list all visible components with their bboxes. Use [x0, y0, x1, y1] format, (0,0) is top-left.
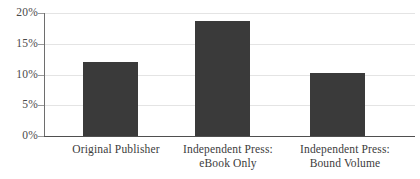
x-axis-label-0-line1: Original Publisher: [72, 143, 159, 155]
plot-area: [44, 13, 415, 136]
bar-independent-press-ebook-only[interactable]: [195, 21, 250, 136]
y-tick-mark-0: [38, 136, 44, 137]
y-tick-label-15: 15%: [8, 38, 38, 50]
y-tick-label-5: 5%: [8, 99, 38, 111]
y-tick-label-20: 20%: [8, 7, 38, 19]
y-tick-label-0: 0%: [8, 130, 38, 142]
x-axis-line: [44, 136, 415, 137]
x-axis-label-2: Independent Press: Bound Volume: [275, 143, 415, 170]
bar-original-publisher[interactable]: [83, 62, 138, 136]
bar-chart: 20% 15% 10% 5% 0% Original Publisher Ind…: [0, 0, 420, 179]
bar-independent-press-bound-volume[interactable]: [310, 73, 365, 136]
x-axis-label-2-line2: Bound Volume: [275, 157, 415, 171]
y-tick-label-10: 10%: [8, 69, 38, 81]
x-axis-label-1-line1: Independent Press:: [183, 143, 273, 155]
x-axis-label-2-line1: Independent Press:: [300, 143, 390, 155]
